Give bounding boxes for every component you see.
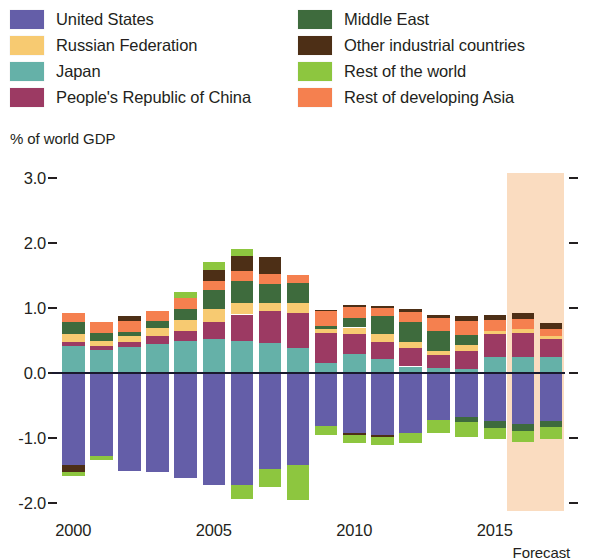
- bar-segment-2017-us: [540, 373, 563, 421]
- legend-item-other_industrial[interactable]: Other industrial countries: [298, 32, 525, 58]
- legend-item-rest_world[interactable]: Rest of the world: [298, 58, 525, 84]
- chart-legend: United StatesRussian FederationJapanPeop…: [0, 0, 589, 118]
- bar-2016[interactable]: [512, 160, 535, 520]
- bar-2003[interactable]: [146, 160, 169, 520]
- bar-2000[interactable]: [62, 160, 85, 520]
- bar-2013[interactable]: [427, 160, 450, 520]
- bar-segment-2004-japan: [174, 341, 197, 373]
- bar-segment-2007-japan: [259, 343, 282, 373]
- y-tick-mark-left-1: [48, 242, 57, 244]
- bar-segment-2005-us: [203, 373, 226, 485]
- y-tick-label-1: 2.0: [0, 235, 46, 251]
- bar-2007[interactable]: [259, 160, 282, 520]
- bar-segment-2010-us: [343, 373, 366, 433]
- bar-segment-2012-other_industrial: [399, 309, 422, 312]
- legend-label-middle_east: Middle East: [344, 10, 429, 28]
- bar-segment-2017-prc: [540, 339, 563, 357]
- bar-segment-2006-other_industrial: [231, 256, 254, 271]
- bar-segment-2017-russia: [540, 336, 563, 339]
- y-tick-mark-right-1: [569, 242, 578, 244]
- y-tick-mark-right-4: [569, 437, 578, 439]
- bar-2001[interactable]: [90, 160, 113, 520]
- bar-segment-2013-rest_asia: [427, 318, 450, 331]
- y-tick-mark-right-3: [569, 372, 578, 374]
- bar-segment-2000-us: [62, 373, 85, 465]
- bar-segment-2009-middle_east: [315, 326, 338, 330]
- legend-item-rest_asia[interactable]: Rest of developing Asia: [298, 84, 525, 110]
- legend-item-middle_east[interactable]: Middle East: [298, 6, 525, 32]
- bar-2009[interactable]: [315, 160, 338, 520]
- bar-segment-2004-russia: [174, 320, 197, 330]
- bar-2015[interactable]: [484, 160, 507, 520]
- plot-inner: 3.02.01.00.0-1.0-2.0: [0, 160, 589, 520]
- bar-segment-2007-us: [259, 373, 282, 469]
- bar-segment-2014-other_industrial: [455, 316, 478, 321]
- legend-label-rest_world: Rest of the world: [344, 62, 466, 80]
- bar-segment-2011-middle_east: [371, 316, 394, 334]
- x-tick-label-2000: 2000: [55, 521, 91, 540]
- bar-segment-2004-us: [174, 373, 197, 478]
- bar-2010[interactable]: [343, 160, 366, 520]
- bar-segment-2000-rest_asia: [62, 313, 85, 323]
- bar-segment-2013-other_industrial: [427, 315, 450, 319]
- bar-segment-2015-rest_world-neg: [484, 428, 507, 440]
- bar-segment-2010-rest_world-neg: [343, 435, 366, 443]
- bar-segment-2006-prc: [231, 315, 254, 342]
- bar-segment-2011-rest_asia: [371, 308, 394, 316]
- bar-2002[interactable]: [118, 160, 141, 520]
- bar-segment-2010-other_industrial: [343, 305, 366, 307]
- bar-segment-2009-prc: [315, 333, 338, 362]
- bar-segment-2001-middle_east: [90, 333, 113, 341]
- bar-segment-2011-russia: [371, 334, 394, 342]
- legend-item-japan[interactable]: Japan: [10, 58, 251, 84]
- legend-item-prc[interactable]: People's Republic of China: [10, 84, 251, 110]
- bar-2005[interactable]: [203, 160, 226, 520]
- bar-2011[interactable]: [371, 160, 394, 520]
- bar-2008[interactable]: [287, 160, 310, 520]
- bar-segment-2008-prc: [287, 313, 310, 347]
- bar-segment-2000-middle_east: [62, 322, 85, 334]
- legend-swatch-other_industrial: [298, 36, 332, 55]
- legend-swatch-rest_asia: [298, 88, 332, 107]
- bar-segment-2002-japan: [118, 347, 141, 373]
- bar-segment-2003-us: [146, 373, 169, 472]
- y-tick-label-2: 1.0: [0, 300, 46, 316]
- bar-segment-2005-rest_world: [203, 262, 226, 270]
- bar-segment-2006-rest_asia: [231, 271, 254, 281]
- bar-segment-2010-middle_east: [343, 318, 366, 327]
- bar-segment-2003-middle_east: [146, 321, 169, 328]
- bar-2006[interactable]: [231, 160, 254, 520]
- bar-segment-2010-prc: [343, 334, 366, 354]
- bar-segment-2010-rest_asia: [343, 307, 366, 319]
- legend-column-left: United StatesRussian FederationJapanPeop…: [10, 6, 251, 110]
- bar-segment-2008-rest_world-neg: [287, 465, 310, 500]
- bar-segment-2009-rest_asia: [315, 311, 338, 325]
- bar-segment-2005-rest_asia: [203, 281, 226, 290]
- bar-segment-2002-us: [118, 373, 141, 471]
- bar-segment-2010-japan: [343, 354, 366, 373]
- bar-2004[interactable]: [174, 160, 197, 520]
- bar-segment-2012-middle_east: [399, 322, 422, 343]
- bar-segment-2014-middle_east: [455, 335, 478, 345]
- bar-segment-2001-russia: [90, 341, 113, 346]
- x-tick-label-2015: 2015: [477, 521, 513, 540]
- bar-segment-2013-us: [427, 373, 450, 420]
- bar-2017[interactable]: [540, 160, 563, 520]
- plot-area: 3.02.01.00.0-1.0-2.0: [0, 160, 589, 520]
- bar-segment-2012-prc: [399, 348, 422, 366]
- y-tick-mark-right-2: [569, 307, 578, 309]
- legend-swatch-prc: [10, 88, 44, 107]
- bar-2012[interactable]: [399, 160, 422, 520]
- bar-segment-2002-middle_east: [118, 332, 141, 336]
- legend-item-russia[interactable]: Russian Federation: [10, 32, 251, 58]
- bar-segment-2002-rest_asia: [118, 321, 141, 332]
- bar-2014[interactable]: [455, 160, 478, 520]
- legend-item-us[interactable]: United States: [10, 6, 251, 32]
- bar-segment-2012-us: [399, 373, 422, 433]
- bar-segment-2009-russia: [315, 329, 338, 333]
- y-tick-mark-right-0: [569, 177, 578, 179]
- zero-baseline: [52, 372, 565, 375]
- x-tick-label-2005: 2005: [196, 521, 232, 540]
- bar-segment-2005-prc: [203, 322, 226, 339]
- bar-segment-2015-us: [484, 373, 507, 421]
